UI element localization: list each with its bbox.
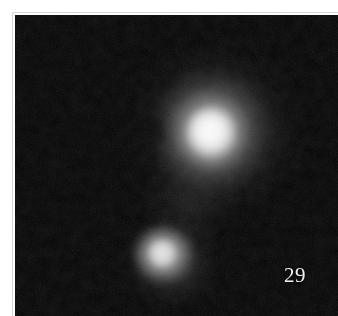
companion-source-peak	[148, 239, 176, 267]
figure-plate: 29	[0, 0, 338, 316]
primary-source-outer-halo	[121, 33, 311, 229]
nebulous-bridge	[139, 155, 235, 251]
sky-field: 29	[15, 15, 338, 316]
plate-number-label: 29	[284, 265, 306, 286]
primary-source-core	[175, 95, 247, 169]
primary-source-peak	[189, 110, 231, 152]
companion-source-core	[132, 224, 194, 284]
dark-notch	[141, 115, 167, 149]
plate-edge-top-rule	[13, 12, 338, 13]
primary-source-mid-halo	[148, 67, 272, 195]
companion-source-halo	[115, 206, 227, 316]
plate-edge-left-rule	[12, 12, 13, 316]
